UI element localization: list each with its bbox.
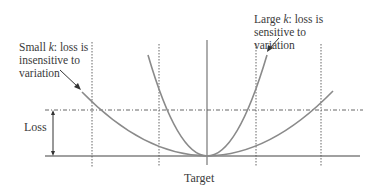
small-k-annotation: Small k: loss isinsensitive tovariation xyxy=(19,41,88,80)
small-k-line3: variation xyxy=(19,67,60,79)
target-label: Target xyxy=(184,172,214,185)
small-k-line2: insensitive to xyxy=(19,54,80,66)
large-k-annotation: Large k: loss issensitive tovariation xyxy=(254,13,323,52)
small-k-prefix: Small xyxy=(19,41,49,53)
large-k-line2: sensitive to xyxy=(254,26,306,38)
small-k-line1: : loss is xyxy=(54,41,89,53)
large-k-line1: : loss is xyxy=(289,13,324,25)
large-k-line3: variation xyxy=(254,39,295,51)
loss-label: Loss xyxy=(24,121,47,134)
loss-arrow xyxy=(51,110,55,156)
large-k-prefix: Large xyxy=(254,13,283,25)
